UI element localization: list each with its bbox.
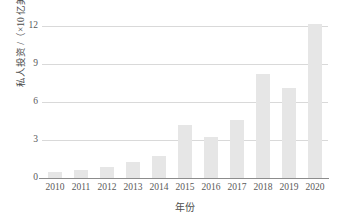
bar <box>256 74 270 178</box>
y-tick-label: 0 <box>10 173 38 183</box>
x-tick-label: 2010 <box>42 181 68 194</box>
x-tick-label: 2020 <box>302 181 328 194</box>
x-tick-label: 2011 <box>68 181 94 194</box>
bar <box>74 170 88 178</box>
bar <box>230 120 244 178</box>
x-axis-title: 年份 <box>40 199 330 214</box>
bar <box>100 167 114 178</box>
y-tick-label: 9 <box>10 59 38 69</box>
x-tick-label: 2014 <box>146 181 172 194</box>
x-tick-label: 2018 <box>250 181 276 194</box>
y-tick-label: 12 <box>10 21 38 31</box>
bar <box>204 137 218 178</box>
bar <box>126 162 140 178</box>
x-tick-label: 2015 <box>172 181 198 194</box>
x-tick-label: 2016 <box>198 181 224 194</box>
bar-series <box>42 18 328 178</box>
y-axis-tick-labels: 036912 <box>6 18 38 178</box>
bar <box>152 156 166 178</box>
bar <box>282 88 296 178</box>
plot-area <box>42 18 328 178</box>
y-tick-label: 6 <box>10 97 38 107</box>
x-axis-tick-labels: 2010201120122013201420152016201720182019… <box>42 181 328 195</box>
x-tick-label: 2013 <box>120 181 146 194</box>
x-tick-label: 2019 <box>276 181 302 194</box>
x-tick-label: 2017 <box>224 181 250 194</box>
x-tick-label: 2012 <box>94 181 120 194</box>
x-axis-line <box>39 178 329 179</box>
bar-chart: 私人投资 /（×10 亿美元） 036912 20102011201220132… <box>0 0 337 222</box>
bar <box>178 125 192 178</box>
y-tick-label: 3 <box>10 135 38 145</box>
bar <box>308 24 322 178</box>
